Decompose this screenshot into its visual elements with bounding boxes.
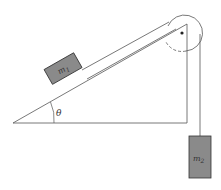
- block-m2: m2: [189, 136, 211, 178]
- pulley-axle-icon: [180, 31, 183, 34]
- mass2-subscript: 2: [200, 157, 205, 164]
- incline-triangle: [13, 24, 187, 123]
- incline-pulley-diagram: θ m1 m2: [0, 0, 221, 190]
- block-m1: m1: [44, 53, 82, 85]
- angle-arc: [51, 102, 55, 123]
- angle-theta-label: θ: [56, 108, 62, 118]
- rope-incline: [82, 22, 176, 79]
